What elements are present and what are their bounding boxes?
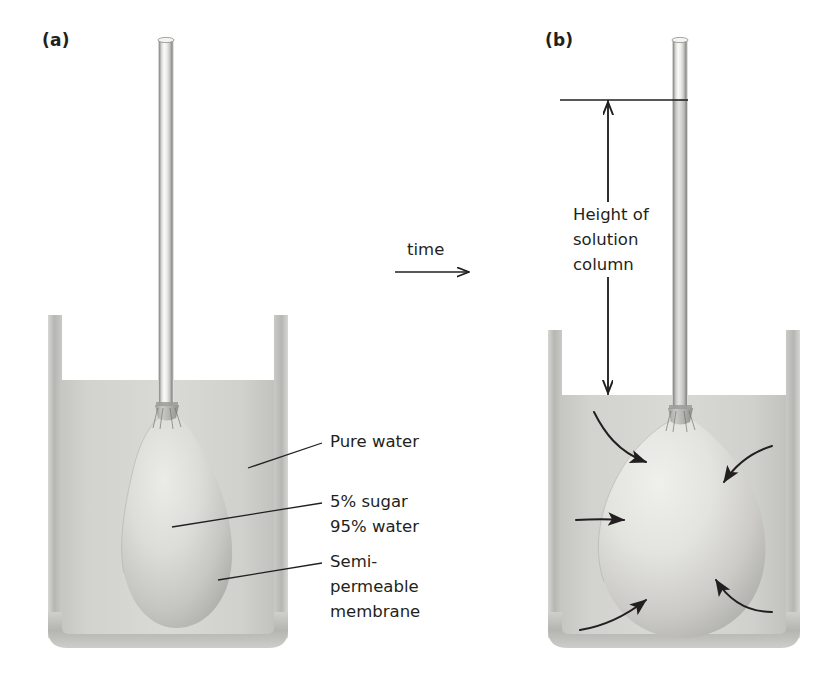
panel-a-tube-top-rim [158, 37, 174, 42]
panel-a-bag-tie [156, 402, 178, 406]
panel-a-beaker-right-wall [274, 315, 288, 638]
panel-b-glass-tube-solution [672, 100, 688, 416]
panel-b-glass-tube-empty [672, 40, 688, 100]
osmosis-figure: (a) (b) Pure water 5% sugar 95% water Se… [0, 0, 837, 678]
height-of-solution-column-label: Height of solution column [573, 202, 649, 277]
water-inflow-arrow-left [576, 519, 624, 520]
panel-a-artwork [48, 37, 322, 648]
panel-a-beaker-left-wall [48, 315, 62, 638]
panel-a-glass-tube [158, 40, 174, 412]
panel-b-bag-neck [668, 408, 693, 425]
panel-b-beaker-left-wall [548, 330, 562, 638]
panel-a-bag-neck [155, 405, 179, 421]
panel-b-artwork [548, 37, 800, 648]
panel-b-label: (b) [545, 30, 573, 50]
callout-semi-permeable-membrane: Semi- permeable membrane [330, 549, 420, 624]
panel-a-label: (a) [42, 30, 70, 50]
callout-pure-water: Pure water [330, 429, 419, 454]
time-arrow-label: time [407, 240, 444, 259]
panel-b-beaker-right-wall [786, 330, 800, 638]
panel-b-bag-tie [669, 405, 692, 409]
panel-b-tube-top-rim [672, 37, 688, 42]
callout-sugar-solution: 5% sugar 95% water [330, 489, 419, 539]
